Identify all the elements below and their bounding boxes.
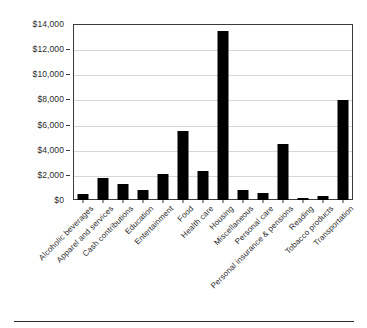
bar-slot xyxy=(213,24,233,200)
y-axis: $0$2,000$4,000$6,000$8,000$10,000$12,000… xyxy=(0,24,70,200)
bar[interactable] xyxy=(338,100,349,200)
y-axis-tick-mark xyxy=(66,150,70,151)
y-axis-tick-mark xyxy=(66,74,70,75)
bar-slot xyxy=(293,24,313,200)
y-axis-tick-label: $6,000 xyxy=(37,120,64,130)
bar[interactable] xyxy=(138,190,149,200)
bar-slot xyxy=(233,24,253,200)
y-axis-tick-label: $12,000 xyxy=(33,44,64,54)
y-axis-tick-label: $10,000 xyxy=(33,69,64,79)
bars-container xyxy=(73,24,353,200)
bar[interactable] xyxy=(198,171,209,200)
bottom-divider xyxy=(14,321,354,322)
bar-slot xyxy=(133,24,153,200)
bar[interactable] xyxy=(178,131,189,200)
bar[interactable] xyxy=(98,178,109,200)
bar[interactable] xyxy=(238,190,249,200)
bar-slot xyxy=(93,24,113,200)
bar[interactable] xyxy=(218,31,229,200)
y-axis-tick-label: $14,000 xyxy=(33,19,64,29)
bar[interactable] xyxy=(158,174,169,200)
y-axis-tick-mark xyxy=(66,175,70,176)
bar-slot xyxy=(313,24,333,200)
y-axis-tick-label: $8,000 xyxy=(37,94,64,104)
bar-slot xyxy=(333,24,353,200)
bar-slot xyxy=(193,24,213,200)
bar-slot xyxy=(113,24,133,200)
bar-slot xyxy=(253,24,273,200)
y-axis-tick-label: $4,000 xyxy=(37,145,64,155)
bar-slot xyxy=(153,24,173,200)
y-axis-tick-mark xyxy=(66,99,70,100)
bar[interactable] xyxy=(258,193,269,200)
bar[interactable] xyxy=(278,144,289,200)
bar-slot xyxy=(273,24,293,200)
bar[interactable] xyxy=(118,184,129,200)
y-axis-tick-label: $2,000 xyxy=(37,170,64,180)
y-axis-tick-mark xyxy=(66,49,70,50)
y-axis-tick-label: $0 xyxy=(54,195,64,205)
y-axis-tick-mark xyxy=(66,125,70,126)
x-axis: Alcoholic beveragesApparel and servicesC… xyxy=(73,200,367,310)
bar-slot xyxy=(73,24,93,200)
bar-slot xyxy=(173,24,193,200)
bar-chart-figure: $0$2,000$4,000$6,000$8,000$10,000$12,000… xyxy=(0,0,367,328)
